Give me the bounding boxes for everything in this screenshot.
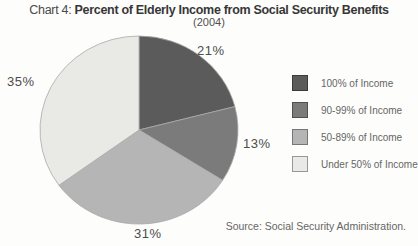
legend-swatch-50-89pct — [292, 129, 308, 145]
legend-label-50-89pct: 50-89% of Income — [321, 132, 402, 143]
pie-label-100pct: 21% — [197, 43, 225, 58]
legend-label-100pct: 100% of Income — [321, 78, 393, 89]
legend-swatch-100pct — [292, 75, 308, 91]
legend-swatch-under50pct — [292, 156, 308, 172]
pie-label-50-89pct: 31% — [134, 226, 162, 241]
pie-label-90-99pct: 13% — [243, 136, 271, 151]
legend-item-under50pct: Under 50% of Income — [292, 156, 418, 172]
legend-item-90-99pct: 90-99% of Income — [292, 102, 418, 118]
legend: 100% of Income 90-99% of Income 50-89% o… — [292, 75, 418, 183]
legend-item-50-89pct: 50-89% of Income — [292, 129, 418, 145]
legend-item-100pct: 100% of Income — [292, 75, 418, 91]
legend-label-under50pct: Under 50% of Income — [321, 159, 418, 170]
chart-page: Chart 4: Percent of Elderly Income from … — [0, 0, 418, 246]
legend-swatch-90-99pct — [292, 102, 308, 118]
legend-label-90-99pct: 90-99% of Income — [321, 105, 402, 116]
source-note: Source: Social Security Administration. — [226, 220, 406, 232]
pie-label-under50pct: 35% — [7, 74, 35, 89]
